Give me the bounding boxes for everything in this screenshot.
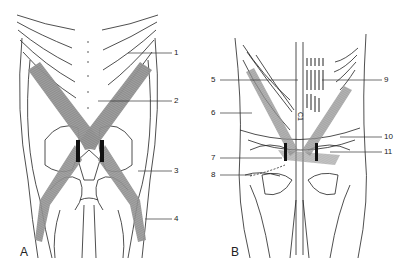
callout-1: 1	[174, 49, 178, 57]
callout-5: 5	[211, 76, 215, 84]
panel-b-drawing	[235, 34, 366, 258]
anatomical-figure: C1 1 2 3 4 A 5 6 7 8 9 10 11 B	[0, 0, 404, 267]
callout-6: 6	[211, 109, 215, 117]
panel-a-label: A	[20, 246, 28, 258]
callout-10: 10	[384, 133, 393, 141]
callout-3: 3	[174, 167, 178, 175]
callout-11: 11	[384, 148, 392, 156]
callout-8: 8	[211, 171, 215, 179]
panel-a-muscle-bands	[28, 62, 152, 242]
callout-2: 2	[174, 97, 178, 105]
callout-4: 4	[174, 215, 178, 223]
panel-b-label: B	[231, 246, 239, 258]
midline-marker-label: C1	[297, 112, 304, 121]
callout-7: 7	[211, 154, 215, 162]
callout-9: 9	[384, 76, 388, 84]
diagram-drawing	[0, 0, 404, 267]
